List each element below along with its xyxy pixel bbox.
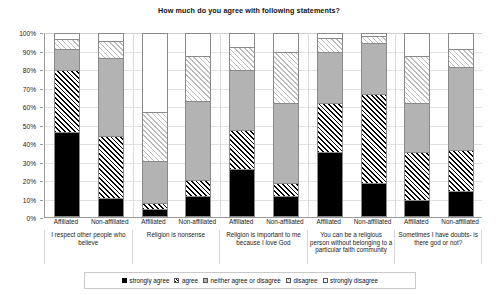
y-axis-tick-label: 60%	[23, 104, 36, 111]
legend-item-neither-agree-or-disagree[interactable]: neither agree or disagree	[203, 277, 281, 284]
y-axis-tick	[40, 181, 43, 182]
bar-segment-strongly-agree	[449, 191, 473, 216]
bar-segment-strongly-disagree	[405, 34, 429, 56]
bar-segment-neither-agree-or-disagree	[274, 103, 298, 183]
bar-non-affiliated-5[interactable]	[273, 33, 299, 217]
plot-area	[44, 33, 482, 218]
bar-segment-strongly-disagree	[449, 34, 473, 49]
legend-swatch-icon	[203, 278, 208, 283]
y-axis-labels: 0%10%20%30%40%50%60%70%80%90%100%	[0, 33, 40, 218]
bar-segment-agree	[362, 94, 386, 183]
bar-affiliated-0[interactable]	[54, 33, 80, 217]
x-axis-tick-label: Non-affiliated	[438, 218, 482, 225]
segment-divider	[55, 39, 79, 40]
legend-label: disagree	[293, 277, 317, 284]
segment-divider	[186, 180, 210, 181]
y-axis-tick-label: 40%	[23, 141, 36, 148]
bar-non-affiliated-7[interactable]	[361, 33, 387, 217]
segment-divider	[274, 196, 298, 197]
x-axis-tick-label: Affiliated	[394, 218, 438, 225]
bar-segment-strongly-disagree	[362, 34, 386, 36]
segment-divider	[405, 152, 429, 153]
y-axis-tick	[40, 144, 43, 145]
segment-divider	[405, 103, 429, 104]
bar-segment-strongly-disagree	[55, 34, 79, 39]
segment-divider	[318, 52, 342, 53]
bar-segment-neither-agree-or-disagree	[362, 43, 386, 94]
x-axis-tick-label: Affiliated	[44, 218, 88, 225]
segment-divider	[318, 152, 342, 153]
bar-segment-strongly-disagree	[274, 34, 298, 52]
bar-affiliated-4[interactable]	[229, 33, 255, 217]
segment-divider	[186, 196, 210, 197]
statement-label-cell: Sometimes I have doubts- is there god or…	[394, 230, 482, 264]
chart-title: How much do you agree with following sta…	[0, 6, 498, 15]
x-axis-tick-label: Affiliated	[307, 218, 351, 225]
bar-segment-strongly-agree	[55, 132, 79, 216]
bar-segment-strongly-agree	[318, 152, 342, 216]
chart-container: How much do you agree with following sta…	[0, 0, 498, 294]
segment-divider	[55, 49, 79, 50]
x-axis-tick-label: Non-affiliated	[263, 218, 307, 225]
bar-segment-neither-agree-or-disagree	[449, 67, 473, 151]
bars-layer	[45, 33, 482, 217]
x-axis-tick-label: Affiliated	[132, 218, 176, 225]
y-axis-tick	[40, 52, 43, 53]
statement-label: Religion is important to me because I lo…	[222, 231, 305, 246]
statement-label: I respect other people who believe	[47, 231, 130, 246]
segment-divider	[449, 49, 473, 50]
segment-divider	[230, 169, 254, 170]
y-axis-tick	[40, 200, 43, 201]
y-axis-tick	[40, 107, 43, 108]
y-axis-tick-label: 70%	[23, 85, 36, 92]
bar-segment-agree	[274, 183, 298, 196]
bar-segment-strongly-disagree	[99, 34, 123, 41]
bar-segment-neither-agree-or-disagree	[143, 161, 167, 203]
segment-divider	[274, 183, 298, 184]
bar-segment-agree	[405, 152, 429, 199]
legend-item-disagree[interactable]: disagree	[286, 277, 318, 284]
x-axis-tick-label: Affiliated	[219, 218, 263, 225]
segment-divider	[99, 41, 123, 42]
bar-segment-disagree	[405, 56, 429, 103]
legend-item-strongly-disagree[interactable]: strongly disagree	[323, 277, 378, 284]
x-axis-tick-label: Non-affiliated	[351, 218, 395, 225]
y-axis-tick-label: 80%	[23, 67, 36, 74]
bar-segment-disagree	[318, 38, 342, 53]
y-axis-tick	[40, 33, 43, 34]
bar-segment-strongly-agree	[230, 169, 254, 216]
legend-item-strongly-agree[interactable]: strongly agree	[122, 277, 169, 284]
bar-segment-agree	[99, 136, 123, 198]
bar-non-affiliated-9[interactable]	[448, 33, 474, 217]
legend-swatch-icon	[323, 278, 328, 283]
bar-affiliated-6[interactable]	[317, 33, 343, 217]
bar-segment-neither-agree-or-disagree	[318, 52, 342, 103]
bar-non-affiliated-3[interactable]	[185, 33, 211, 217]
segment-divider	[143, 209, 167, 210]
y-axis-tick-label: 0%	[26, 215, 36, 222]
bar-segment-neither-agree-or-disagree	[99, 58, 123, 136]
bar-segment-neither-agree-or-disagree	[55, 49, 79, 71]
segment-divider	[230, 130, 254, 131]
bar-affiliated-2[interactable]	[142, 33, 168, 217]
legend-item-agree[interactable]: agree	[174, 277, 198, 284]
bar-non-affiliated-1[interactable]	[98, 33, 124, 217]
legend-swatch-icon	[174, 278, 179, 283]
legend-swatch-icon	[286, 278, 291, 283]
y-axis-tick-label: 20%	[23, 178, 36, 185]
bar-segment-neither-agree-or-disagree	[405, 103, 429, 152]
segment-divider	[143, 203, 167, 204]
bar-segment-neither-agree-or-disagree	[230, 70, 254, 130]
statement-label-cell: Religion is important to me because I lo…	[219, 230, 307, 264]
statement-label: Sometimes I have doubts- is there god or…	[397, 231, 479, 246]
segment-divider	[405, 56, 429, 57]
bar-segment-strongly-agree	[405, 200, 429, 216]
y-axis-tick	[40, 70, 43, 71]
bar-affiliated-8[interactable]	[404, 33, 430, 217]
statement-label-cell: I respect other people who believe	[44, 230, 132, 264]
y-axis-tick	[40, 218, 43, 219]
segment-divider	[274, 103, 298, 104]
legend-swatch-icon	[122, 278, 127, 283]
legend-label: strongly disagree	[330, 277, 378, 284]
bar-segment-agree	[230, 130, 254, 168]
